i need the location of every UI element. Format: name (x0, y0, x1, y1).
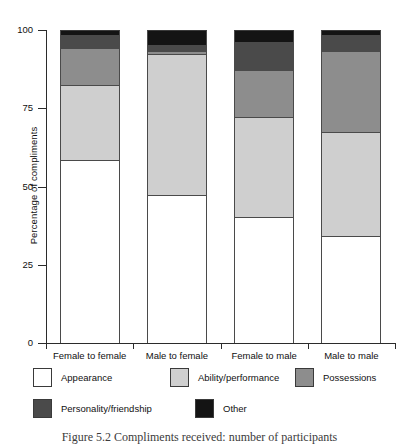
bar-female-to-female (60, 30, 120, 343)
bar-segment (147, 196, 207, 343)
legend-label: Other (223, 403, 247, 414)
y-tick-mark (38, 265, 46, 266)
y-tick-mark (38, 108, 46, 109)
legend-swatch (295, 368, 314, 387)
bar-segment (321, 237, 381, 343)
bar-segment (60, 161, 120, 343)
y-tick-label: 50 (0, 181, 33, 192)
y-tick-mark (38, 343, 46, 344)
legend-label: Possessions (323, 372, 376, 383)
y-tick-label: 75 (0, 102, 33, 113)
legend-label: Ability/performance (198, 372, 279, 383)
plot-area (46, 30, 395, 343)
legend-label: Appearance (61, 372, 112, 383)
legend-swatch (170, 368, 189, 387)
y-tick-label: 100 (0, 24, 33, 35)
x-category-label: Female to female (46, 350, 133, 361)
bar-segment (234, 43, 294, 71)
legend-item-other[interactable]: Other (195, 399, 247, 418)
bar-segment (321, 52, 381, 133)
bar-female-to-male (234, 30, 294, 343)
x-tick-mark (133, 343, 134, 349)
legend-item-possessions[interactable]: Possessions (295, 368, 376, 387)
bar-segment (60, 86, 120, 161)
x-tick-mark (46, 343, 47, 349)
bar-segment (234, 71, 294, 118)
bar-segment (147, 30, 207, 46)
bar-segment (234, 118, 294, 218)
x-category-label: Male to female (133, 350, 220, 361)
bar-segment (234, 30, 294, 43)
y-tick-mark (38, 30, 46, 31)
y-tick-label: 25 (0, 259, 33, 270)
legend-label: Personality/friendship (61, 403, 152, 414)
y-tick-mark (38, 187, 46, 188)
legend-item-ability-performance[interactable]: Ability/performance (170, 368, 279, 387)
bar-male-to-male (321, 30, 381, 343)
x-category-label: Female to male (221, 350, 308, 361)
legend-swatch (33, 368, 52, 387)
bar-male-to-female (147, 30, 207, 343)
legend-item-personality-friendship[interactable]: Personality/friendship (33, 399, 152, 418)
x-category-label: Male to male (308, 350, 395, 361)
bar-segment (60, 49, 120, 87)
x-tick-mark (221, 343, 222, 349)
legend-swatch (33, 399, 52, 418)
bar-segment (321, 133, 381, 236)
legend-swatch (195, 399, 214, 418)
x-tick-mark (395, 343, 396, 349)
x-tick-mark (308, 343, 309, 349)
legend-row: Personality/friendshipOther (0, 399, 399, 425)
y-tick-label: 0 (0, 337, 33, 348)
bar-segment (147, 55, 207, 196)
legend-row: AppearanceAbility/performancePossessions (0, 368, 399, 394)
bar-segment (321, 36, 381, 52)
chart-legend: AppearanceAbility/performancePossessions… (0, 368, 399, 428)
figure-caption: Figure 5.2 Compliments received: number … (0, 430, 399, 445)
bar-segment (60, 36, 120, 49)
legend-item-appearance[interactable]: Appearance (33, 368, 112, 387)
bar-segment (234, 218, 294, 343)
